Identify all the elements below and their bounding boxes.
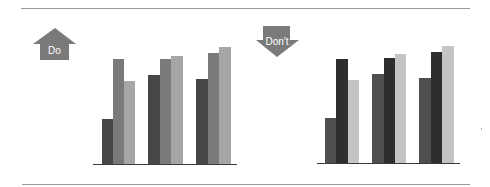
do-x-axis bbox=[93, 164, 237, 165]
dont-bar-g3-s2 bbox=[431, 52, 442, 163]
do-bar-g1-s2 bbox=[113, 59, 124, 164]
do-bar-g3-s3 bbox=[219, 47, 231, 164]
do-bar-g3-s2 bbox=[208, 53, 219, 164]
do-bar-g2-s1 bbox=[148, 75, 160, 164]
dont-bar-g1-s2 bbox=[336, 59, 348, 163]
do-bar-g3-s1 bbox=[196, 79, 208, 164]
do-bar-g2-s2 bbox=[160, 59, 171, 164]
do-bar-g1-s3 bbox=[124, 81, 135, 164]
stray-mark bbox=[481, 128, 482, 130]
dont-bar-g2-s3 bbox=[395, 54, 406, 163]
bottom-divider bbox=[22, 184, 470, 185]
top-divider bbox=[21, 8, 470, 9]
dont-bar-g2-s2 bbox=[384, 58, 395, 163]
dont-bar-g3-s3 bbox=[442, 46, 454, 163]
do-bar-g1-s1 bbox=[102, 119, 113, 164]
dont-bar-g1-s1 bbox=[325, 118, 336, 163]
dont-x-axis bbox=[317, 163, 460, 164]
do-bar-g2-s3 bbox=[171, 56, 183, 164]
dont-bar-g1-s3 bbox=[348, 80, 359, 163]
dont-label: Don't bbox=[262, 36, 292, 48]
dont-bar-g2-s1 bbox=[372, 74, 384, 163]
do-label: Do bbox=[40, 45, 69, 57]
dont-bar-g3-s1 bbox=[419, 78, 431, 163]
